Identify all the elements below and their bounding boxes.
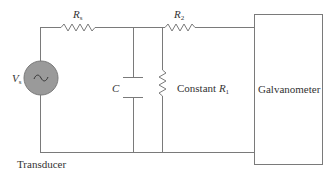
label-rs: Rs [73,9,82,22]
label-c: C [112,83,119,94]
resistor-rs-zigzag [61,24,95,31]
label-vs: Vs [12,73,21,86]
resistor-r1-zigzag [159,70,166,96]
label-r2: R2 [174,9,184,22]
label-galvanometer: Galvanometer [258,84,320,95]
label-constant-r1: Constant R1 [177,83,229,96]
label-transducer: Transducer [17,159,66,170]
resistor-r2-zigzag [165,24,195,31]
